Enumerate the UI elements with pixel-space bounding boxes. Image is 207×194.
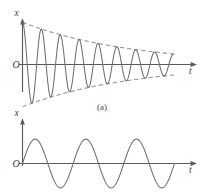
panel-b-group: x t O: [13, 108, 198, 188]
panel-a-damped-wave: [23, 22, 174, 103]
figure-container: x t O (a) x t O: [0, 0, 207, 194]
panel-a-caption: (a): [97, 102, 107, 112]
panel-b-x-axis-label: t: [189, 165, 192, 175]
panel-a-group: x t O (a): [13, 8, 198, 112]
panel-b-origin-label: O: [13, 158, 20, 169]
oscillation-figure: x t O (a) x t O: [0, 0, 207, 194]
panel-a-x-axis-label: t: [189, 66, 192, 76]
panel-a-origin-label: O: [13, 59, 20, 70]
panel-b-y-axis-arrowhead: [20, 118, 25, 124]
panel-b-y-axis-label: x: [14, 108, 20, 118]
panel-a-y-axis-label: x: [14, 8, 20, 18]
